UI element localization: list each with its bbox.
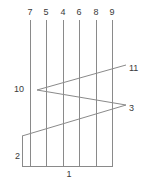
vertical-strand-group xyxy=(31,20,113,166)
left-label-10: 10 xyxy=(14,85,24,94)
frame-line-group xyxy=(22,136,113,167)
bottom-label-1: 1 xyxy=(66,170,71,179)
top-label-8: 8 xyxy=(93,8,98,17)
top-label-7: 7 xyxy=(27,8,32,17)
line-2-to-3 xyxy=(22,105,126,136)
diagram-canvas: 754689 102 113 1 xyxy=(0,0,155,184)
right-label-3: 3 xyxy=(129,104,134,113)
left-label-2: 2 xyxy=(15,152,20,161)
top-label-4: 4 xyxy=(60,8,65,17)
diagonal-line-group xyxy=(22,65,126,136)
top-label-9: 9 xyxy=(109,8,114,17)
top-label-5: 5 xyxy=(43,8,48,17)
top-label-6: 6 xyxy=(76,8,81,17)
right-label-11: 11 xyxy=(129,64,138,73)
